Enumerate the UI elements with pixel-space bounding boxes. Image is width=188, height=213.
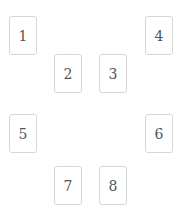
card-label: 4: [155, 29, 164, 43]
card-label: 5: [19, 127, 28, 141]
card-8[interactable]: 8: [99, 166, 127, 205]
card-4[interactable]: 4: [145, 16, 173, 55]
card-label: 1: [19, 29, 28, 43]
card-label: 6: [155, 127, 164, 141]
card-7[interactable]: 7: [54, 166, 82, 205]
card-label: 2: [64, 67, 73, 81]
card-6[interactable]: 6: [145, 114, 173, 153]
card-5[interactable]: 5: [9, 114, 37, 153]
card-label: 8: [109, 179, 118, 193]
card-label: 7: [64, 179, 73, 193]
card-2[interactable]: 2: [54, 54, 82, 93]
card-3[interactable]: 3: [99, 54, 127, 93]
card-1[interactable]: 1: [9, 16, 37, 55]
card-label: 3: [109, 67, 118, 81]
card-board: 1 2 3 4 5 6 7 8: [0, 0, 188, 213]
